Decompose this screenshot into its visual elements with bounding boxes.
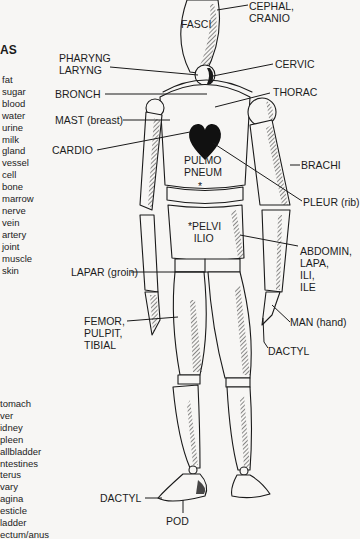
- label-fasci: FASCI: [181, 18, 211, 30]
- list-item: vein: [2, 217, 34, 229]
- list-item: milk: [2, 134, 34, 146]
- label-pelvi: *PELVI ILIO: [188, 220, 221, 244]
- label-man: MAN (hand): [290, 316, 347, 328]
- label-thorac: THORAC: [273, 86, 317, 98]
- label-femor: FEMOR, PULPIT, TIBIAL: [84, 315, 125, 351]
- label-pharyng: PHARYNG LARYNG: [59, 52, 111, 76]
- list-item: blood: [2, 98, 34, 110]
- list-item: nerve: [2, 205, 34, 217]
- list-item: esticle: [0, 505, 49, 517]
- list-item: artery: [2, 229, 34, 241]
- label-cardio: CARDIO: [52, 144, 93, 156]
- label-brachi: BRACHI: [301, 159, 341, 171]
- list-item: agina: [0, 493, 49, 505]
- label-dactyl-hand: DACTYL: [268, 345, 309, 357]
- list-item: marrow: [2, 193, 34, 205]
- label-pulmo: PULMO PNEUM: [184, 154, 222, 178]
- list-item: terus: [0, 469, 49, 481]
- left-thigh: [173, 272, 206, 375]
- label-lapar: LAPAR (groin): [71, 266, 138, 278]
- list-item: idney: [0, 422, 49, 434]
- leader-cephal: [217, 5, 248, 10]
- list-item: ectum/anus: [0, 529, 49, 539]
- label-pulmo-star: *: [198, 180, 202, 192]
- list-item: allbladder: [0, 446, 49, 458]
- list-item: skin: [2, 265, 34, 277]
- label-bronch: BRONCH: [55, 88, 101, 100]
- label-mast: MAST (breast): [55, 114, 123, 126]
- label-cervic: CERVIC: [275, 58, 314, 70]
- roots-list-tissues: fatsugarbloodwaterurinemilkglandvesselce…: [2, 74, 34, 276]
- list-item: muscle: [2, 253, 34, 265]
- list-item: pleen: [0, 434, 49, 446]
- list-item: sugar: [2, 86, 34, 98]
- list-item: tomach: [0, 398, 49, 410]
- list-item: ladder: [0, 517, 49, 529]
- list-item: ver: [0, 410, 49, 422]
- list-item: ntestines: [0, 458, 49, 470]
- list-item: urine: [2, 122, 34, 134]
- leader-man: [272, 305, 290, 322]
- label-dactyl-foot: DACTYL: [100, 492, 141, 504]
- list-item: gland: [2, 145, 34, 157]
- label-cephal: CEPHAL, CRANIO: [249, 0, 294, 24]
- list-item: vary: [0, 481, 49, 493]
- label-pod: POD: [166, 515, 189, 527]
- list-item: cell: [2, 169, 34, 181]
- label-pleur: PLEUR (rib): [303, 196, 360, 208]
- list-item: water: [2, 110, 34, 122]
- list-item: bone: [2, 181, 34, 193]
- list-item: joint: [2, 241, 34, 253]
- roots-list-organs: tomachveridneypleenallbladderntestineste…: [0, 398, 49, 539]
- leader-pharyng: [110, 67, 198, 75]
- leader-cervic: [213, 64, 273, 76]
- right-foot: [232, 475, 270, 498]
- section-heading-fragment: AS: [0, 43, 17, 57]
- label-abdomin: ABDOMIN, LAPA, ILI, ILE: [300, 245, 352, 293]
- list-item: vessel: [2, 157, 34, 169]
- list-item: fat: [2, 74, 34, 86]
